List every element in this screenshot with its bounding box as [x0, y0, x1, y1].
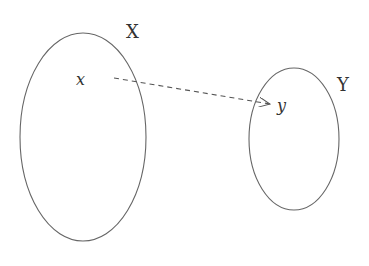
set-x-label: X	[126, 21, 139, 42]
element-x-label: x	[76, 70, 85, 89]
element-y-label: y	[276, 96, 287, 115]
set-x-ellipse	[20, 33, 146, 241]
set-y-ellipse	[249, 68, 339, 210]
mapping-arrow	[114, 78, 270, 104]
set-y-label: Y	[336, 74, 350, 95]
mapping-diagram: X Y x y	[0, 0, 369, 266]
